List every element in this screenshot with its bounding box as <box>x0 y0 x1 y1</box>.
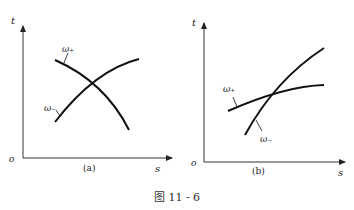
curve-omega-minus-a <box>55 59 139 122</box>
origin-label-b: o <box>191 158 197 168</box>
y-axis-label-a: t <box>11 15 16 26</box>
leader-omega-plus-b <box>233 97 237 107</box>
panel-b: t o s (b) ω₊ ω₋ <box>191 17 345 178</box>
figure-canvas: t o s (a) ω₊ ω₋ t o s (b) ω₊ ω₋ <box>0 0 354 210</box>
sublabel-a: (a) <box>83 163 95 173</box>
leader-omega-minus-b <box>256 120 262 131</box>
origin-label-a: o <box>9 154 15 164</box>
label-omega-minus-a: ω₋ <box>44 103 56 113</box>
x-axis-label-b: s <box>338 167 343 178</box>
curve-omega-plus-a <box>55 60 129 130</box>
leader-omega-plus-a <box>64 53 68 63</box>
label-omega-minus-b: ω₋ <box>260 134 272 144</box>
y-axis-label-b: t <box>192 17 197 28</box>
sublabel-b: (b) <box>252 166 265 176</box>
label-omega-plus-a: ω₊ <box>62 44 74 54</box>
figure-caption: 图 11 - 6 <box>0 188 354 204</box>
leader-omega-minus-a <box>56 110 60 116</box>
x-axis-label-a: s <box>155 163 160 174</box>
label-omega-plus-b: ω₊ <box>223 84 235 94</box>
panel-a: t o s (a) ω₊ ω₋ <box>9 15 172 174</box>
